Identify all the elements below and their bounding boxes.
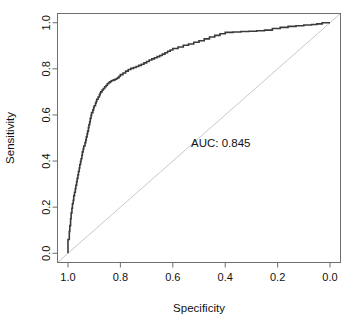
x-axis-title: Specificity [173, 302, 225, 314]
y-tick-label: 0.4 [41, 153, 53, 168]
y-tick-label: 0.8 [41, 61, 53, 76]
y-axis-title: Sensitivity [4, 112, 16, 164]
auc-annotation-label: AUC: 0.845 [191, 137, 250, 149]
x-tick-label: 0.6 [165, 271, 180, 283]
roc-plot-figure: 1.00.80.60.40.20.0 0.00.20.40.60.81.0 Sp… [0, 0, 354, 323]
x-tick-label: 0.4 [218, 271, 233, 283]
y-tick-label: 0.2 [41, 200, 53, 215]
y-tick-label: 0.0 [41, 246, 53, 261]
x-tick-label: 0.8 [113, 271, 128, 283]
y-tick-label: 1.0 [41, 15, 53, 30]
x-tick-label: 1.0 [60, 271, 75, 283]
y-tick-label: 0.6 [41, 107, 53, 122]
x-tick-label: 0.2 [270, 271, 285, 283]
x-tick-label: 0.0 [322, 271, 337, 283]
roc-chart-canvas: 1.00.80.60.40.20.0 0.00.20.40.60.81.0 Sp… [0, 0, 354, 323]
